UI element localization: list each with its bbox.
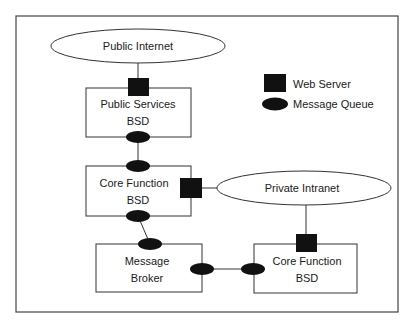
message-queue-icon: [138, 238, 162, 250]
message-queue-icon: [126, 210, 150, 222]
node-label-line1: Core Function: [272, 255, 341, 267]
legend: Web Server Message Queue: [262, 74, 374, 111]
node-label-line1: Message: [125, 255, 170, 267]
legend-label: Message Queue: [293, 98, 374, 110]
node-private-intranet: Private Intranet: [217, 171, 391, 205]
web-server-icon: [264, 74, 286, 92]
node-message-broker: Message Broker: [96, 244, 202, 292]
legend-label: Web Server: [293, 78, 351, 90]
node-label-line2: BSD: [296, 272, 319, 284]
message-queue-icon: [126, 131, 150, 143]
architecture-diagram: Public Internet Public Services BSD Core…: [0, 0, 411, 322]
node-public-internet: Public Internet: [51, 29, 225, 63]
message-queue-icon: [126, 160, 150, 172]
node-label-line2: BSD: [127, 115, 150, 127]
node-label-line2: BSD: [127, 194, 150, 206]
node-label: Public Internet: [103, 40, 173, 52]
web-server-icon: [296, 234, 317, 252]
web-server-icon: [128, 78, 149, 96]
message-queue-icon: [190, 263, 214, 275]
message-queue-icon: [262, 98, 288, 111]
message-queue-icon: [241, 263, 265, 275]
legend-item-web-server: Web Server: [264, 74, 351, 92]
node-core-function-bsd-1: Core Function BSD: [86, 166, 191, 216]
web-server-icon: [180, 178, 202, 198]
node-label: Private Intranet: [265, 182, 340, 194]
node-label-line1: Public Services: [100, 98, 176, 110]
legend-item-message-queue: Message Queue: [262, 98, 374, 111]
node-label-line1: Core Function: [99, 177, 168, 189]
node-label-line2: Broker: [131, 272, 164, 284]
